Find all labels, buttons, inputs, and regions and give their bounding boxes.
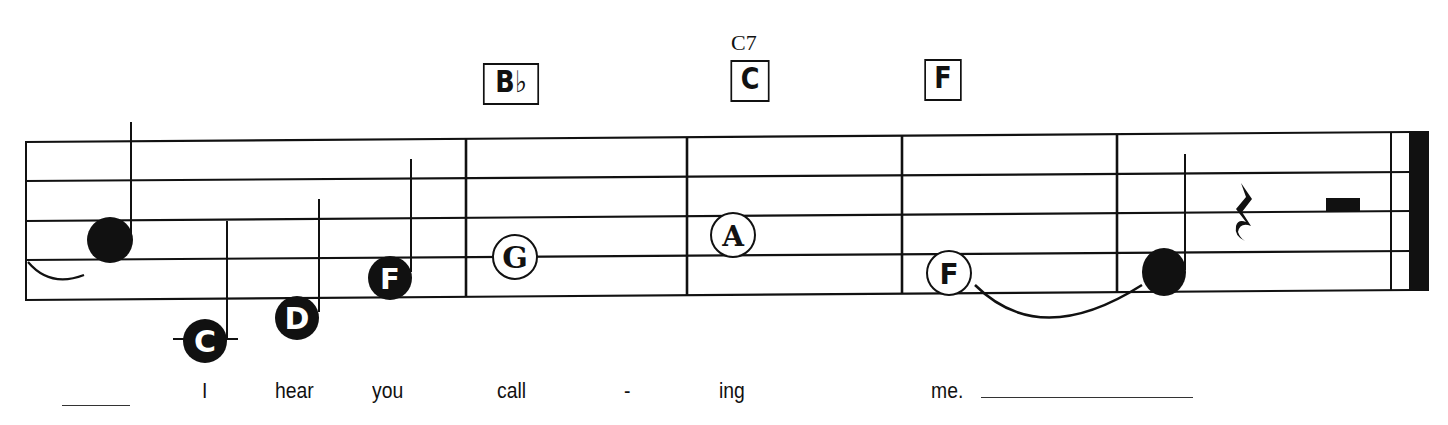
lyric-extender-end [981, 397, 1193, 398]
lyric-ing: ing [719, 378, 745, 404]
note-c: C [173, 221, 238, 363]
svg-text:G: G [502, 240, 528, 275]
lyric-i: I [202, 378, 207, 404]
music-staff: C D F G A F [0, 0, 1448, 425]
lyric-you: you [372, 378, 403, 404]
note-g: G [493, 235, 537, 279]
svg-text:A: A [721, 220, 745, 253]
note-filled-1 [87, 122, 133, 263]
note-filled-last [1142, 154, 1186, 296]
staff-lines [25, 132, 1412, 300]
half-rest-icon [1326, 198, 1360, 211]
lyric-me: me. [931, 378, 963, 404]
note-f-open: F [927, 251, 971, 295]
chord-b-flat: B♭ [483, 63, 539, 105]
lyric-extender-start [62, 405, 130, 406]
svg-text:F: F [380, 262, 400, 296]
note-f-filled: F [368, 159, 412, 300]
svg-text:C: C [194, 324, 216, 359]
svg-text:F: F [939, 258, 958, 291]
chord-f: F [924, 59, 961, 101]
note-a: A [711, 213, 755, 257]
lyric-hear: hear [275, 378, 314, 404]
tie-incoming [28, 262, 84, 279]
svg-text:D: D [285, 301, 310, 336]
barline-final-thick [1409, 131, 1429, 291]
lyric-hyphen: - [624, 378, 630, 404]
chord-c7-label: C7 [731, 30, 757, 56]
chord-c: C [730, 60, 769, 102]
lyric-call: call [497, 378, 526, 404]
